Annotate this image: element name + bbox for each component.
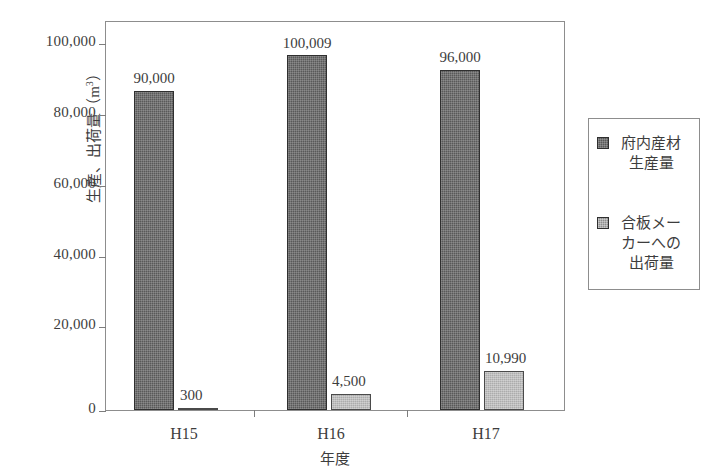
bar-label-h15-production: 90,000 [116,70,192,87]
y-tick-label: 40,000 [54,246,96,263]
legend-entry-shipment[interactable]: 合板メーカーへの出荷量 [597,213,693,273]
bar-h15-production[interactable] [134,91,174,410]
bar-chart: 生産、出荷量（m3） 100,000 80,000 60,000 40,000 … [0,0,703,476]
y-tick-mark [99,257,106,258]
x-tick-mark [407,410,408,417]
y-tick-label: 20,000 [54,316,96,333]
plot-area: 100,000 80,000 60,000 40,000 20,000 0 H1… [105,21,565,411]
legend-label-shipment: 合板メーカーへの出荷量 [610,213,692,273]
legend: 府内産材生産量 合板メーカーへの出荷量 [588,118,700,290]
bar-label-h16-production: 100,009 [266,35,348,52]
bar-h17-production[interactable] [440,70,480,410]
bar-h15-shipment[interactable] [178,408,218,410]
y-tick-label: 60,000 [54,175,96,192]
legend-label-line: 合板メー [621,215,681,231]
legend-label-line: 生産量 [629,155,674,171]
legend-label-production: 府内産材生産量 [610,133,692,173]
y-tick-mark [99,327,106,328]
y-tick-mark [99,186,106,187]
y-tick-mark [99,411,106,412]
y-tick-mark [99,115,106,116]
bar-label-h17-shipment: 10,990 [485,350,557,367]
y-tick-mark [99,44,106,45]
legend-label-line: 府内産材 [621,135,681,151]
bar-label-h17-production: 96,000 [421,49,499,66]
y-axis-title: 生産、出荷量（m3） [82,37,103,233]
x-tick-mark [254,410,255,417]
legend-entry-production[interactable]: 府内産材生産量 [597,133,693,173]
bar-h17-shipment[interactable] [484,371,524,410]
bar-h16-production[interactable] [287,55,327,410]
y-tick-label: 100,000 [46,33,96,50]
bar-label-h15-shipment: 300 [180,387,232,404]
bar-h16-shipment[interactable] [331,394,371,410]
x-category-label-h16: H16 [261,425,401,443]
x-axis-title: 年度 [105,447,565,468]
y-tick-label: 80,000 [54,104,96,121]
y-axis-title-tail: ） [86,66,102,81]
legend-label-line: カーへの [621,235,681,251]
legend-label-line: 出荷量 [629,255,674,271]
bar-label-h16-shipment: 4,500 [332,373,394,390]
legend-swatch-icon [597,137,609,149]
y-tick-label: 0 [88,400,96,417]
y-axis-title-superscript: 3 [84,81,95,86]
x-category-label-h15: H15 [114,425,254,443]
x-category-label-h17: H17 [416,425,556,443]
legend-swatch-icon [597,217,609,229]
